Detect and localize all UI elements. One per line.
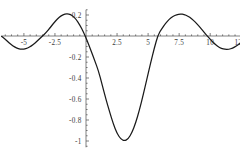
- x-tick-label: 7.5: [174, 39, 184, 47]
- axes-group: [2, 10, 240, 148]
- x-tick-label: 2.5: [112, 39, 122, 47]
- data-curve: [2, 14, 240, 141]
- curve-group: [2, 14, 240, 141]
- x-tick-label: -2.5: [49, 39, 62, 47]
- tick-labels-group: -5-2.52.557.51012.50.2-0.2-0.4-0.6-0.8-1: [21, 12, 240, 146]
- tick-marks-group: [5, 10, 240, 147]
- x-tick-label: 5: [146, 39, 150, 47]
- x-tick-label: 10: [206, 39, 214, 47]
- y-tick-label: 0.2: [72, 12, 82, 20]
- plot-canvas: -5-2.52.557.51012.50.2-0.2-0.4-0.6-0.8-1: [0, 0, 240, 154]
- y-tick-label: -0.6: [69, 96, 82, 104]
- y-tick-label: -0.4: [69, 75, 82, 83]
- plot-figure: -5-2.52.557.51012.50.2-0.2-0.4-0.6-0.8-1: [0, 0, 240, 154]
- y-tick-label: -0.2: [69, 54, 82, 62]
- y-tick-label: -0.8: [69, 117, 82, 125]
- x-tick-label: 12.5: [234, 39, 240, 47]
- x-tick-label: -5: [21, 39, 28, 47]
- y-tick-label: -1: [75, 138, 82, 146]
